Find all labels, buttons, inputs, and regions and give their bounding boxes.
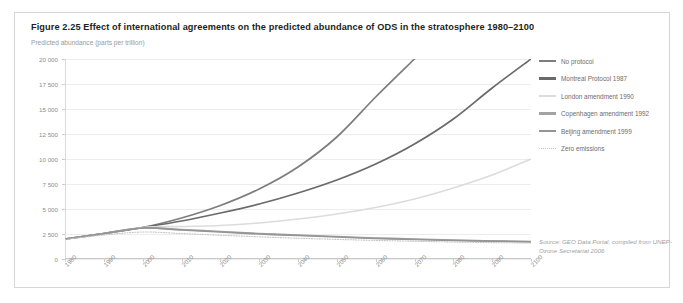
legend-label: Montreal Protocol 1987 [561, 75, 627, 82]
x-tick-label: 2100 [529, 253, 544, 268]
legend-item[interactable]: No protocol [539, 57, 679, 65]
y-tick-label: 2 500 [18, 231, 58, 238]
figure-title: Figure 2.25 Effect of international agre… [31, 22, 534, 32]
series-line [65, 59, 415, 239]
legend-item[interactable]: Beijing amendment 1999 [539, 127, 679, 135]
legend-item[interactable]: Zero emissions [539, 145, 679, 153]
plot-area [65, 59, 531, 259]
y-tick-label: 10 000 [18, 156, 58, 163]
legend-item[interactable]: London amendment 1990 [539, 92, 679, 100]
y-tick-label: 5 000 [18, 206, 58, 213]
legend-label: London amendment 1990 [561, 93, 634, 100]
series-line [65, 159, 531, 239]
legend-label: Zero emissions [561, 145, 604, 152]
series-line [65, 59, 531, 239]
y-tick-label: 7 500 [18, 181, 58, 188]
legend-swatch-icon [539, 130, 556, 132]
legend-swatch-icon [539, 95, 556, 97]
y-axis-unit-label: Predicted abundance (parts per trillion) [31, 39, 145, 46]
legend-label: Beijing amendment 1999 [561, 128, 632, 135]
series-curves [65, 59, 531, 259]
legend-label: No protocol [561, 58, 594, 65]
legend-item[interactable]: Copenhagen amendment 1992 [539, 110, 679, 118]
chart-legend: No protocolMontreal Protocol 1987London … [539, 57, 679, 162]
y-tick-label: 0 [18, 256, 58, 263]
legend-swatch-icon [539, 112, 556, 114]
legend-swatch-icon [539, 148, 556, 149]
legend-swatch-icon [539, 60, 556, 62]
legend-label: Copenhagen amendment 1992 [561, 110, 649, 117]
source-note: Source: GEO Data Portal, compiled from U… [539, 238, 679, 255]
figure-panel: Figure 2.25 Effect of international agre… [14, 12, 670, 288]
y-tick-label: 17 500 [18, 81, 58, 88]
y-tick-label: 12 500 [18, 131, 58, 138]
y-tick-label: 20 000 [18, 56, 58, 63]
y-tick-label: 15 000 [18, 106, 58, 113]
legend-item[interactable]: Montreal Protocol 1987 [539, 75, 679, 83]
legend-swatch-icon [539, 77, 556, 79]
